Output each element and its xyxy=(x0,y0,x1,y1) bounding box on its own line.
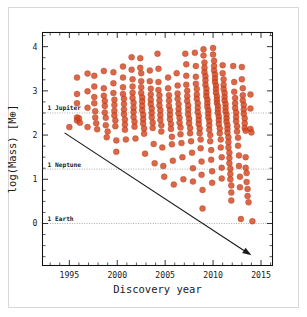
data-point xyxy=(239,76,245,82)
data-point xyxy=(169,141,175,147)
data-point xyxy=(152,160,158,166)
data-point xyxy=(121,111,127,117)
data-point xyxy=(85,71,91,77)
data-point xyxy=(101,85,107,91)
data-point xyxy=(178,131,184,137)
data-point xyxy=(122,127,128,133)
data-point xyxy=(85,124,91,130)
data-point xyxy=(156,92,162,98)
data-point xyxy=(130,83,136,89)
data-point xyxy=(175,91,181,97)
data-point xyxy=(211,58,217,64)
x-tick-label: 2005 xyxy=(155,270,175,280)
y-tick-label: 0 xyxy=(33,218,38,228)
data-point xyxy=(122,121,128,127)
data-point xyxy=(120,84,126,90)
data-point xyxy=(246,199,252,205)
x-tick-label: 2010 xyxy=(203,270,223,280)
data-point xyxy=(179,154,185,160)
data-point xyxy=(138,84,144,90)
data-point xyxy=(235,135,241,141)
data-point xyxy=(85,88,91,94)
data-point xyxy=(227,166,233,172)
data-point xyxy=(228,198,234,204)
data-point xyxy=(77,120,83,126)
data-point xyxy=(234,129,240,135)
data-point xyxy=(165,85,171,91)
data-point xyxy=(91,100,97,106)
data-point xyxy=(138,78,144,84)
data-point xyxy=(158,129,164,135)
data-point xyxy=(194,86,200,92)
x-tick-label: 2000 xyxy=(107,270,127,280)
y-tick-label: 3 xyxy=(33,86,38,96)
y-tick-label: 2 xyxy=(33,130,38,140)
data-point xyxy=(130,76,136,82)
data-point xyxy=(104,134,110,140)
data-point xyxy=(158,122,164,128)
data-point xyxy=(220,62,226,68)
data-point xyxy=(237,174,243,180)
data-point xyxy=(226,150,232,156)
y-axis-label: log(Mass) [M⊕] xyxy=(6,105,18,194)
data-point xyxy=(159,144,165,150)
data-point xyxy=(103,122,109,128)
data-point xyxy=(92,108,98,114)
data-point xyxy=(182,51,188,57)
data-point xyxy=(201,46,207,52)
data-point xyxy=(123,136,129,142)
data-point xyxy=(236,163,242,169)
data-point xyxy=(220,70,226,76)
data-point xyxy=(121,96,127,102)
data-point xyxy=(110,90,116,96)
data-point xyxy=(103,115,109,121)
data-point xyxy=(150,120,156,126)
data-point xyxy=(94,126,100,132)
data-point xyxy=(155,87,161,93)
y-tick-label: 4 xyxy=(33,42,38,52)
data-point xyxy=(132,124,138,130)
data-point xyxy=(130,90,136,96)
data-point xyxy=(238,216,244,222)
data-point xyxy=(217,130,223,136)
data-point xyxy=(174,70,180,76)
data-point xyxy=(175,83,181,89)
data-point xyxy=(183,82,189,88)
data-point xyxy=(247,91,253,97)
data-point xyxy=(187,130,193,136)
data-point xyxy=(110,69,116,75)
data-point xyxy=(147,78,153,84)
data-point xyxy=(240,85,246,91)
data-point xyxy=(219,154,225,160)
data-point xyxy=(200,205,206,211)
data-point xyxy=(243,154,249,160)
data-point xyxy=(244,170,250,176)
data-point xyxy=(219,175,225,181)
data-point xyxy=(129,67,135,73)
data-point xyxy=(85,105,91,111)
x-tick-label: 2015 xyxy=(251,270,271,280)
data-point xyxy=(120,75,126,81)
data-point xyxy=(92,114,98,120)
data-point xyxy=(147,68,153,74)
plot-canvas: 1 Jupiter1 Neptune1 Earth199520002005201… xyxy=(0,0,307,317)
data-point xyxy=(178,140,184,146)
data-point xyxy=(231,79,237,85)
data-point xyxy=(170,158,176,164)
data-point xyxy=(189,150,195,156)
data-point xyxy=(244,179,250,185)
data-point xyxy=(148,91,154,97)
data-point xyxy=(138,70,144,76)
data-point xyxy=(102,103,108,109)
trend-arrow-head-0 xyxy=(242,248,251,256)
data-point xyxy=(91,83,97,89)
data-point xyxy=(231,89,237,95)
data-point xyxy=(155,51,161,57)
data-point xyxy=(219,165,225,171)
data-point xyxy=(192,50,198,56)
data-point xyxy=(193,74,199,80)
data-point xyxy=(129,54,135,60)
data-point xyxy=(218,136,224,142)
data-point xyxy=(132,136,138,142)
data-point xyxy=(227,176,233,182)
